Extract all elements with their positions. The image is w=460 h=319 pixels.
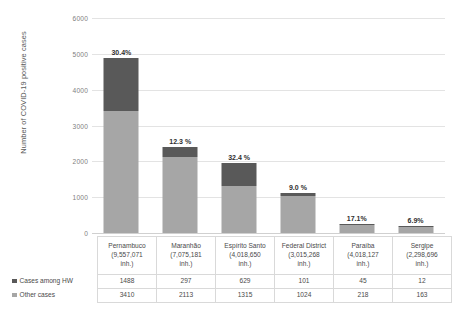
table-cell-hw-federal-district: 101 [275, 275, 334, 289]
bar-percentage-label: 17.1% [347, 215, 367, 222]
data-table: Pernambuco(9,557,071inh.)Maranhão(7,075,… [6, 236, 452, 303]
column-population-unit: inh.) [276, 260, 332, 269]
table-cell-other-maranhão: 2113 [157, 289, 216, 303]
table-corner-cell [6, 237, 98, 275]
y-axis-tick-2000: 2000 [56, 158, 88, 165]
chart-bars-layer: 30.4%12.3 %32.4 %9.0 %17.1%6.9% [92, 18, 445, 233]
y-axis-tick-3000: 3000 [56, 122, 88, 129]
square-swatch-icon [12, 279, 17, 284]
table-cell-hw-maranhão: 297 [157, 275, 216, 289]
bar-percentage-label: 9.0 % [289, 184, 307, 191]
table-column-header-federal-district: Federal District(3,015,268inh.) [275, 237, 334, 275]
bar-stack[interactable] [280, 193, 315, 233]
column-region-name: Sergipe [394, 242, 450, 251]
bar-segment-other-cases[interactable] [398, 227, 433, 233]
column-population: (9,557,071 [99, 251, 155, 260]
y-axis-tick-5000: 5000 [56, 50, 88, 57]
legend-label-other-cases: Other cases [20, 291, 56, 298]
y-axis-tick-6000: 6000 [56, 15, 88, 22]
bar-stack[interactable] [222, 163, 257, 233]
bar-stack[interactable] [163, 147, 198, 233]
column-population: (3,015,268 [276, 251, 332, 260]
table-column-header-pernambuco: Pernambuco(9,557,071inh.) [98, 237, 157, 275]
table-cell-hw-paraíba: 45 [334, 275, 393, 289]
chart-plot-region: Number of COVID-19 positive cases 600050… [0, 0, 460, 240]
bar-slot-federal-district: 9.0 % [269, 18, 328, 233]
bar-slot-sergipe: 6.9% [386, 18, 445, 233]
gridline-0 [92, 233, 445, 234]
bar-slot-maranhão: 12.3 % [151, 18, 210, 233]
legend-item-cases-among-hw: Cases among HW [6, 275, 98, 289]
table-header-row: Pernambuco(9,557,071inh.)Maranhão(7,075,… [6, 237, 452, 275]
column-population-unit: inh.) [158, 260, 214, 269]
column-population-unit: inh.) [99, 260, 155, 269]
column-region-name: Pernambuco [99, 242, 155, 251]
table-column-header-paraíba: Paraíba(4,018,127inh.) [334, 237, 393, 275]
table-cell-other-sergipe: 163 [393, 289, 452, 303]
table-column-header-espírito-santo: Espírito Santo(4,018,650inh.) [216, 237, 275, 275]
column-region-name: Paraíba [335, 242, 391, 251]
bar-segment-cases-among-hw[interactable] [222, 163, 257, 186]
column-population: (2,298,696 [394, 251, 450, 260]
bar-segment-other-cases[interactable] [280, 196, 315, 233]
square-swatch-icon [12, 293, 17, 298]
y-axis-tick-labels: 6000500040003000200010000 [56, 18, 88, 240]
column-population-unit: inh.) [394, 260, 450, 269]
column-population-unit: inh.) [335, 260, 391, 269]
bar-stack[interactable] [398, 226, 433, 233]
table-cell-other-espírito-santo: 1315 [216, 289, 275, 303]
table-row-other-cases: Other cases 3410211313151024218163 [6, 289, 452, 303]
table-cell-other-pernambuco: 3410 [98, 289, 157, 303]
y-axis-tick-4000: 4000 [56, 86, 88, 93]
table-cell-hw-espírito-santo: 629 [216, 275, 275, 289]
table-body: Cases among HW 14882976291014512 Other c… [6, 275, 452, 303]
bar-slot-paraíba: 17.1% [327, 18, 386, 233]
y-axis-tick-1000: 1000 [56, 194, 88, 201]
table-cell-other-federal-district: 1024 [275, 289, 334, 303]
column-population: (4,018,127 [335, 251, 391, 260]
bar-segment-other-cases[interactable] [339, 225, 374, 233]
column-population: (7,075,181 [158, 251, 214, 260]
bar-percentage-label: 6.9% [408, 217, 424, 224]
legend-label-cases-among-hw: Cases among HW [20, 277, 74, 284]
covid-cases-stacked-bar-figure: Number of COVID-19 positive cases 600050… [0, 0, 460, 319]
table-cell-hw-pernambuco: 1488 [98, 275, 157, 289]
table-row-cases-among-hw: Cases among HW 14882976291014512 [6, 275, 452, 289]
table-cell-hw-sergipe: 12 [393, 275, 452, 289]
column-region-name: Maranhão [158, 242, 214, 251]
bar-percentage-label: 32.4 % [228, 154, 250, 161]
column-population-unit: inh.) [217, 260, 273, 269]
bar-stack[interactable] [104, 58, 139, 234]
chart-data-table: Pernambuco(9,557,071inh.)Maranhão(7,075,… [0, 236, 460, 303]
bar-slot-espírito-santo: 32.4 % [210, 18, 269, 233]
bar-segment-other-cases[interactable] [163, 157, 198, 233]
table-column-header-maranhão: Maranhão(7,075,181inh.) [157, 237, 216, 275]
table-cell-other-paraíba: 218 [334, 289, 393, 303]
bar-stack[interactable] [339, 224, 374, 233]
bar-percentage-label: 30.4% [111, 49, 131, 56]
column-region-name: Espírito Santo [217, 242, 273, 251]
bar-segment-other-cases[interactable] [104, 111, 139, 233]
column-population: (4,018,650 [217, 251, 273, 260]
bar-segment-other-cases[interactable] [222, 186, 257, 233]
bar-segment-cases-among-hw[interactable] [104, 58, 139, 111]
bar-segment-cases-among-hw[interactable] [163, 147, 198, 158]
table-column-header-sergipe: Sergipe(2,298,696inh.) [393, 237, 452, 275]
column-region-name: Federal District [276, 242, 332, 251]
bar-percentage-label: 12.3 % [169, 138, 191, 145]
y-axis-title: Number of COVID-19 positive cases [19, 8, 28, 178]
bar-slot-pernambuco: 30.4% [92, 18, 151, 233]
legend-item-other-cases: Other cases [6, 289, 98, 303]
